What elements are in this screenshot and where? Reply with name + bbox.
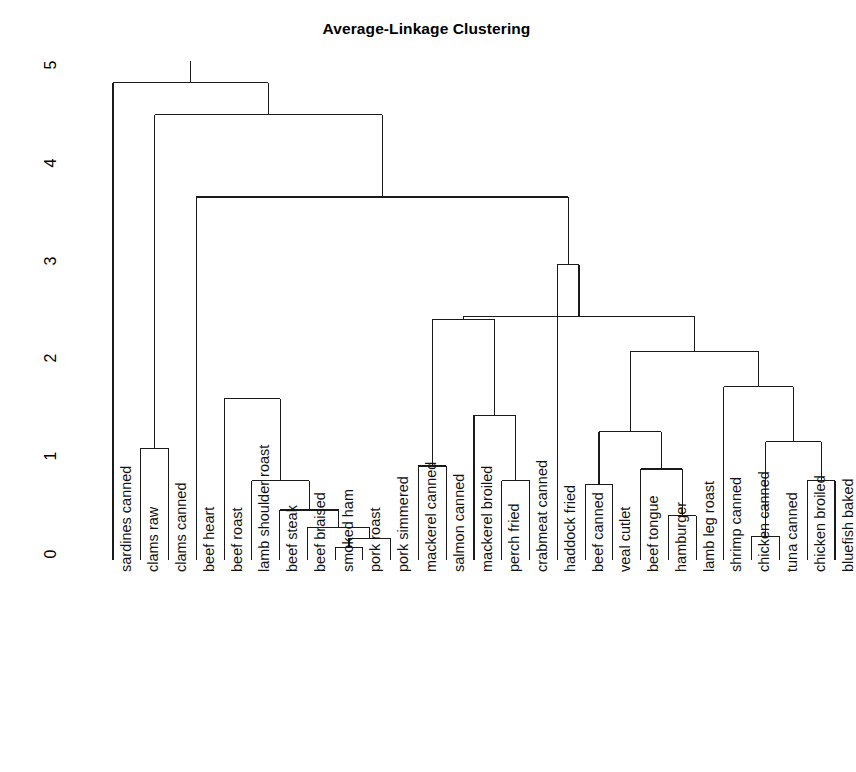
dendrogram-plot — [0, 0, 853, 772]
dendrogram-figure: Average-Linkage Clustering 012345 sardin… — [0, 0, 853, 772]
